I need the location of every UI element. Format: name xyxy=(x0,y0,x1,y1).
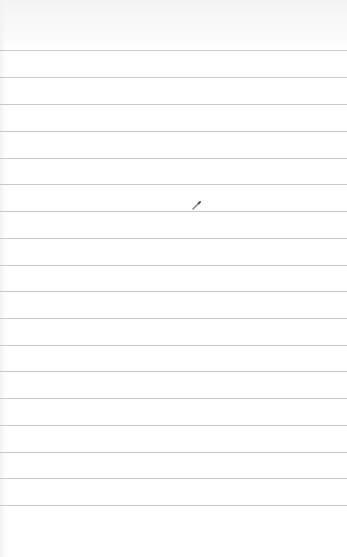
ruled-line xyxy=(0,371,347,372)
ruled-line xyxy=(0,318,347,319)
page-header xyxy=(0,0,347,44)
ruled-line xyxy=(0,158,347,159)
ruled-line xyxy=(0,211,347,212)
ruled-line xyxy=(0,425,347,426)
ruled-line xyxy=(0,184,347,185)
ruled-line xyxy=(0,265,347,266)
ruled-line xyxy=(0,291,347,292)
ruled-line xyxy=(0,238,347,239)
notepad-page[interactable] xyxy=(0,0,347,557)
ruled-line xyxy=(0,452,347,453)
ruled-line xyxy=(0,505,347,506)
ruled-line xyxy=(0,104,347,105)
ruled-line xyxy=(0,77,347,78)
ruled-line xyxy=(0,478,347,479)
ruled-line xyxy=(0,345,347,346)
page-edge-shade xyxy=(0,0,6,557)
ruled-line xyxy=(0,398,347,399)
pencil-icon xyxy=(192,196,201,205)
ruled-line xyxy=(0,50,347,51)
ruled-line xyxy=(0,131,347,132)
